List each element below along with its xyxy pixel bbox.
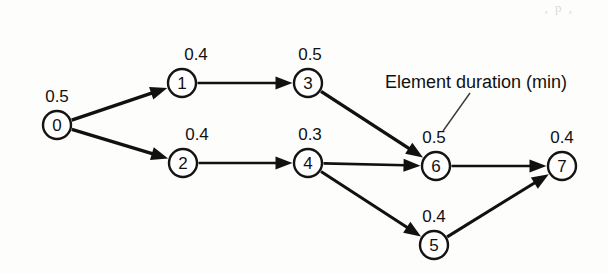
edge-4-to-5: [321, 171, 421, 236]
node-3[interactable]: 30.5: [294, 45, 322, 97]
duration-label-3: 0.5: [298, 45, 322, 64]
arrowhead: [403, 159, 420, 172]
annotation-layer: Element duration (min): [385, 72, 567, 131]
edge-3-to-6: [321, 91, 423, 157]
edge-2-to-4: [199, 156, 293, 169]
node-label-3: 3: [303, 74, 312, 93]
arrowhead: [530, 159, 547, 172]
node-6[interactable]: 60.5: [422, 128, 450, 180]
node-1[interactable]: 10.4: [168, 45, 208, 97]
edge-0-to-2: [72, 129, 168, 159]
node-5[interactable]: 50.4: [420, 207, 448, 259]
duration-label-7: 0.4: [550, 128, 574, 147]
figure-canvas: , p , 00.510.420.430.540.350.460.570.4 E…: [0, 0, 608, 274]
node-label-6: 6: [431, 157, 440, 176]
node-label-1: 1: [177, 74, 186, 93]
arrowhead: [150, 147, 168, 160]
duration-label-2: 0.4: [185, 125, 209, 144]
annotation-label: Element duration (min): [385, 72, 567, 92]
node-2[interactable]: 20.4: [169, 125, 209, 177]
node-label-7: 7: [557, 157, 566, 176]
edge-4-to-6: [323, 159, 420, 172]
duration-label-6: 0.5: [422, 128, 446, 147]
node-4[interactable]: 40.3: [294, 125, 322, 177]
arrowhead: [403, 222, 421, 237]
node-7[interactable]: 70.4: [548, 128, 576, 180]
duration-label-4: 0.3: [298, 125, 322, 144]
arrowhead: [276, 76, 293, 89]
edge-1-to-3: [198, 76, 293, 89]
edge-0-to-1: [72, 87, 168, 120]
edge-5-to-7: [447, 174, 549, 237]
duration-label-1: 0.4: [184, 45, 208, 64]
edge-6-to-7: [452, 159, 547, 172]
duration-label-0: 0.5: [45, 87, 69, 106]
annotation-leader-line: [443, 93, 470, 131]
node-0[interactable]: 00.5: [43, 87, 71, 139]
node-label-0: 0: [52, 116, 61, 135]
duration-label-5: 0.4: [422, 207, 446, 226]
arrowhead: [531, 174, 549, 189]
arrowhead: [405, 143, 423, 158]
node-label-5: 5: [429, 236, 438, 255]
arrowhead: [276, 156, 293, 169]
arrowhead: [149, 87, 167, 100]
node-label-2: 2: [178, 154, 187, 173]
network-diagram: 00.510.420.430.540.350.460.570.4 Element…: [0, 0, 608, 274]
node-label-4: 4: [303, 154, 312, 173]
